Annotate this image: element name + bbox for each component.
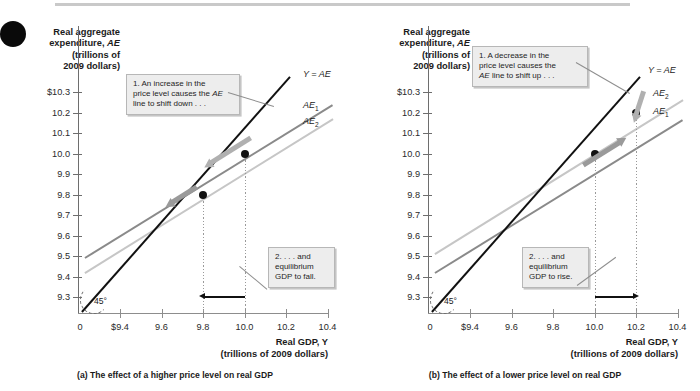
xtick-9-4 (120, 309, 121, 318)
xtick-label-10-0: 10.0 (575, 322, 615, 332)
panel-a-direction-arrow-shaft (205, 296, 245, 298)
ytick-9-9 (73, 174, 82, 175)
ytick-label-10-2: 10.2 (376, 108, 420, 118)
ytick-9-6 (73, 236, 82, 237)
panel-b-dashed-10-0 (595, 154, 596, 313)
xtick-label-10-2: 10.2 (266, 322, 306, 332)
panel-b-direction-arrow-head (633, 293, 639, 299)
panel-a-ae2-label-text: AE (303, 116, 315, 126)
panel-b-callout-1-line1: 1. A decrease in the (479, 51, 549, 60)
ytick-label-9-7: 9.7 (26, 210, 70, 220)
ytick-label-9-9: 9.9 (26, 169, 70, 179)
xtick-label-0: 0 (410, 322, 450, 332)
panel-a-ae2-label-sub: 2 (315, 121, 319, 128)
panel-a-equilibrium-dot-initial (241, 150, 249, 158)
ytick-9-9 (423, 174, 432, 175)
ytick-label-10-3: $10.3 (376, 87, 420, 97)
panel-b-ae1-label-sub: 1 (665, 111, 669, 118)
xtick-9-6 (512, 309, 513, 318)
xaxis-title-line1: Real GDP, (626, 337, 672, 347)
panel-a-ae2-label: AE2 (303, 116, 319, 128)
panel-a-ae1-line (84, 104, 333, 259)
xtick-label-10-4: 10.4 (658, 322, 698, 332)
ytick-10-2 (423, 113, 432, 114)
xaxis-title-y: Y (322, 337, 328, 347)
xaxis-title-y: Y (672, 337, 678, 347)
xtick-10-4 (678, 309, 679, 318)
xtick-10-4 (328, 309, 329, 318)
ytick-label-10-0: 10.0 (376, 149, 420, 159)
ytick-10-2 (73, 113, 82, 114)
panel-a-plot: $10.3 10.2 10.1 10.0 9.9 9.8 9.7 9.6 9.5… (0, 0, 350, 391)
xtick-label-9-6: 9.6 (142, 322, 182, 332)
panel-a-y-equals-ae-label: Y = AE (303, 69, 331, 79)
panel-a-callout-2: 2. . . . and equilibrium GDP to fall. (268, 247, 335, 288)
ytick-label-10-1: 10.1 (26, 128, 70, 138)
ytick-9-8 (423, 195, 432, 196)
panel-b-direction-arrow-shaft (595, 296, 634, 298)
panel-b-ae2-label-text: AE (653, 88, 665, 98)
panel-b-callout-2-line2: equilibrium (529, 262, 568, 271)
xtick-label-9-6: 9.6 (492, 322, 532, 332)
panel-a-direction-arrow-head (199, 293, 205, 299)
xtick-label-10-2: 10.2 (616, 322, 656, 332)
panel-a-yaxis-line (78, 26, 79, 313)
ytick-label-9-9: 9.9 (376, 169, 420, 179)
ytick-label-9-7: 9.7 (376, 210, 420, 220)
panel-a-ae1-label: AE1 (303, 100, 319, 112)
panel-a-dashed-10-0 (245, 154, 246, 313)
panel-a-45-label: 45° (94, 296, 107, 306)
xaxis-title-line1: Real GDP, (276, 337, 322, 347)
ytick-9-4 (423, 277, 432, 278)
panel-a-ae1-label-sub: 1 (315, 105, 319, 112)
panel-b-callout-2-line1: 2. . . . and (529, 252, 565, 261)
panel-a-callout-1: 1. An increase in the price level causes… (126, 74, 240, 115)
ytick-label-9-8: 9.8 (376, 190, 420, 200)
xtick-9-4 (470, 309, 471, 318)
xaxis-title-line2: (trillions of 2009 dollars) (221, 349, 328, 359)
xtick-label-9-4: $9.4 (450, 322, 490, 332)
ytick-label-9-5: 9.5 (26, 251, 70, 261)
xtick-label-10-4: 10.4 (308, 322, 348, 332)
panel-a-xaxis-title: Real GDP, Y (trillions of 2009 dollars) (168, 337, 328, 360)
ytick-10-1 (73, 133, 82, 134)
panel-b-caption: (b) The effect of a lower price level on… (350, 370, 700, 380)
panel-a-caption: (a) The effect of a higher price level o… (0, 370, 350, 380)
panel-a-callout-1-ae: AE (212, 89, 223, 98)
panel-a-equilibrium-dot-new (199, 191, 207, 199)
ytick-9-4 (73, 277, 82, 278)
panel-b-ae1-label-text: AE (653, 106, 665, 116)
panel-b-xaxis-title: Real GDP, Y (trillions of 2009 dollars) (518, 337, 678, 360)
panel-b-yaxis-line (428, 26, 429, 313)
ytick-9-6 (423, 236, 432, 237)
ytick-9-7 (423, 215, 432, 216)
panel-b-callout-2: 2. . . . and equilibrium GDP to rise. (522, 247, 589, 288)
ytick-label-9-4: 9.4 (376, 272, 420, 282)
panel-b-callout-1: 1. A decrease in the price level causes … (472, 46, 588, 87)
ytick-label-9-5: 9.5 (376, 251, 420, 261)
xtick-label-0: 0 (60, 322, 100, 332)
xaxis-title-line2: (trillions of 2009 dollars) (571, 349, 678, 359)
panel-b-plot: $10.3 10.2 10.1 10.0 9.9 9.8 9.7 9.6 9.5… (350, 0, 700, 391)
panel-a-callout-2-line3: GDP to fall. (275, 272, 316, 281)
ytick-label-9-8: 9.8 (26, 190, 70, 200)
panel-a-callout-2-line2: equilibrium (275, 262, 314, 271)
ytick-10-0 (423, 154, 432, 155)
panel-a-callout-1-line1: 1. An increase in the (133, 79, 206, 88)
panel-a: Real aggregate expenditure, AE (trillion… (0, 0, 350, 391)
ytick-9-5 (423, 256, 432, 257)
ytick-label-10-3: $10.3 (26, 87, 70, 97)
panel-a-callout-1-line2: price level causes the (133, 89, 212, 98)
xtick-9-8 (553, 309, 554, 318)
ytick-9-5 (73, 256, 82, 257)
ytick-10-3 (73, 92, 82, 93)
ytick-10-0 (73, 154, 82, 155)
panel-b-45-label: 45° (444, 296, 457, 306)
panel-b-ae2-label-sub: 2 (665, 93, 669, 100)
ytick-label-10-1: 10.1 (376, 128, 420, 138)
xtick-label-9-8: 9.8 (533, 322, 573, 332)
xtick-label-9-4: $9.4 (100, 322, 140, 332)
ytick-label-9-6: 9.6 (376, 231, 420, 241)
ytick-9-7 (73, 215, 82, 216)
ytick-label-9-4: 9.4 (26, 272, 70, 282)
